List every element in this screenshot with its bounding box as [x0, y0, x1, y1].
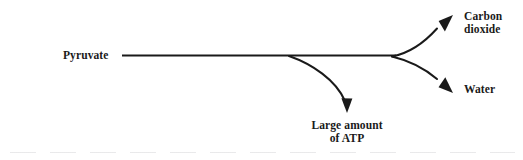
atp-branch-curve	[289, 56, 345, 101]
water-arrowhead	[439, 77, 454, 93]
pathway-arrow-graphic	[0, 0, 523, 160]
scan-artifact-line	[10, 152, 515, 153]
label-carbon-dioxide-line1: Carbon	[464, 10, 502, 22]
label-carbon-dioxide-line2: dioxide	[464, 23, 501, 35]
label-water: Water	[464, 83, 495, 96]
diagram-canvas: Pyruvate Carbondioxide Water Large amoun…	[0, 0, 523, 160]
label-atp-line2: of ATP	[330, 132, 365, 144]
label-carbon-dioxide: Carbondioxide	[464, 10, 502, 35]
label-atp-line1: Large amount	[311, 119, 382, 131]
atp-arrowhead	[341, 98, 352, 113]
carbon-dioxide-arrowhead	[439, 15, 453, 32]
label-large-amount-of-atp: Large amountof ATP	[297, 119, 397, 144]
carbon-dioxide-curve	[392, 29, 437, 57]
water-curve	[392, 57, 437, 80]
label-pyruvate: Pyruvate	[63, 49, 109, 62]
